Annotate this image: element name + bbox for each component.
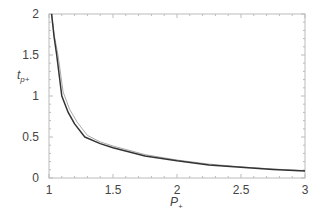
axis-ticks	[49, 14, 305, 178]
plot-frame	[49, 14, 305, 178]
x-tick-label: 1.5	[105, 183, 122, 197]
y-axis-title: tp+	[17, 68, 30, 84]
line-chart: 11.522.5300.511.52 P+ tp+	[0, 0, 326, 219]
y-tick-label: 0	[32, 171, 39, 185]
y-tick-label: 1	[32, 89, 39, 103]
y-tick-label: 1.5	[22, 48, 39, 62]
curve-light-line	[52, 14, 305, 171]
x-tick-label: 1	[46, 183, 53, 197]
y-tick-label: 0.5	[22, 130, 39, 144]
curve-dark-line	[52, 14, 305, 171]
x-tick-label: 2.5	[233, 183, 250, 197]
x-tick-label: 3	[302, 183, 309, 197]
data-series	[52, 14, 305, 171]
y-tick-label: 2	[32, 7, 39, 21]
x-axis-title: P+	[170, 195, 183, 211]
